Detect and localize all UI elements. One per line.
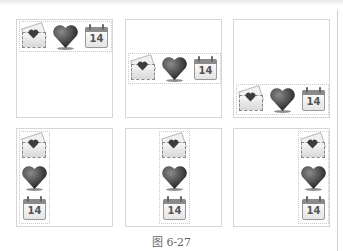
icon-group[interactable]: 14 [236, 84, 329, 115]
calendar-day-number: 14 [23, 205, 46, 217]
envelope-heart-icon [21, 23, 48, 50]
icon-group[interactable]: 14 [128, 53, 221, 84]
figure-caption: 图 6-27 [0, 233, 343, 249]
icon-group[interactable]: 14 [19, 21, 112, 52]
calendar-day-number: 14 [302, 205, 325, 217]
calendar-icon: 14 [21, 195, 48, 222]
envelope-heart-icon [130, 55, 157, 82]
panel-top-right: 14 [233, 19, 330, 118]
calendar-day-number: 14 [302, 96, 325, 108]
heart-icon [161, 164, 188, 191]
panel-top-center: 14 [125, 19, 222, 118]
heart-icon [269, 86, 296, 113]
panel-bottom-left: 14 [16, 128, 113, 227]
calendar-day-number: 14 [194, 65, 217, 77]
panel-bottom-center: 14 [125, 128, 222, 227]
envelope-heart-icon [300, 133, 327, 160]
heart-icon [52, 23, 79, 50]
panel-bottom-right: 14 [233, 128, 330, 227]
calendar-icon: 14 [300, 86, 327, 113]
envelope-heart-icon [238, 86, 265, 113]
icon-group[interactable]: 14 [159, 131, 190, 224]
envelope-heart-icon [21, 133, 48, 160]
icon-group[interactable]: 14 [19, 131, 50, 224]
page-right-rule [337, 10, 338, 251]
calendar-icon: 14 [300, 195, 327, 222]
heart-icon [21, 164, 48, 191]
calendar-day-number: 14 [85, 33, 108, 45]
page-top-edge [0, 0, 343, 6]
heart-icon [300, 164, 327, 191]
heart-icon [161, 55, 188, 82]
envelope-heart-icon [161, 133, 188, 160]
icon-group[interactable]: 14 [298, 131, 329, 224]
calendar-day-number: 14 [163, 205, 186, 217]
calendar-icon: 14 [83, 23, 110, 50]
panel-top-left: 14 [16, 19, 113, 118]
calendar-icon: 14 [192, 55, 219, 82]
calendar-icon: 14 [161, 195, 188, 222]
